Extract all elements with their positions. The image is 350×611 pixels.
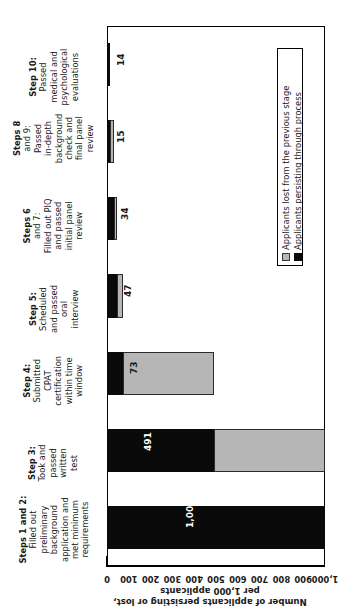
value-axis-tick-label: 0 — [104, 574, 110, 584]
category-label-line: background — [54, 114, 64, 164]
value-axis-tick-label: 300 — [164, 574, 181, 584]
legend-swatch-lost-icon — [282, 253, 290, 261]
category-label-line: within time — [64, 356, 74, 406]
category-label-line: Filled out PIQ — [43, 199, 53, 254]
category-label-line: initial panel — [64, 199, 74, 254]
category-label-line: medical and — [48, 49, 58, 106]
value-axis-tick-label: 400 — [185, 574, 202, 584]
category-label-line: preliminary — [38, 496, 48, 564]
category-label-head: Step 5: — [27, 285, 37, 333]
category-label-line: final panel — [74, 114, 84, 164]
category-label-line: passed — [48, 444, 58, 481]
category-label: Step 4:SubmittedCPATcertificationwithin … — [0, 335, 107, 412]
category-label-line: psychological — [59, 49, 69, 106]
value-axis-tick-label: 700 — [251, 574, 268, 584]
category-label-head: Step 10: — [27, 49, 37, 106]
bar-segment-lost — [110, 120, 114, 163]
value-axis-title: Number of applicants persisting or lost,… — [70, 585, 350, 607]
bar-row: 47 — [107, 274, 325, 317]
category-label-line: written — [59, 444, 69, 481]
legend-label-lost: Applicants lost from the previous stage — [281, 86, 291, 250]
bar-segment-persist — [107, 197, 114, 240]
bar-segment-persist — [107, 274, 117, 317]
category-label-line: Took and — [38, 444, 48, 481]
category-label-line: and 7: — [33, 199, 43, 254]
value-axis-tick-label: 100 — [120, 574, 137, 584]
category-label-line: requirements — [80, 496, 90, 564]
category-label-line: Filled out — [27, 496, 37, 564]
category-label-line: review — [85, 114, 95, 164]
category-label-line: Scheduled — [38, 285, 48, 333]
category-label-head: Steps 8 — [12, 114, 22, 164]
legend-swatch-persist-icon — [294, 253, 302, 261]
category-label-line: Passed — [33, 114, 43, 164]
bar-row: 491 — [107, 429, 325, 472]
category-label-line: window — [74, 356, 84, 406]
category-label-line: met minimum — [69, 496, 79, 564]
category-label-line: background — [48, 496, 58, 564]
category-label: Step 3:Took andpassedwrittentest — [0, 412, 107, 489]
legend-item-lost: Applicants lost from the previous stage — [281, 53, 291, 261]
legend-item-persist: Applicants persisting through process — [293, 53, 303, 261]
category-label-line: interview — [69, 285, 79, 333]
category-label-head: Step 3: — [27, 444, 37, 481]
category-label-line: application and — [59, 496, 69, 564]
category-label-line: and passed — [48, 285, 58, 333]
value-axis-tick-label: 1,000 — [312, 574, 339, 584]
category-label-head: Steps 6 — [22, 199, 32, 254]
category-label: Steps 6and 7:Filled out PIQand passedini… — [0, 180, 107, 257]
category-label-line: Passed — [38, 49, 48, 106]
bar-segment-persist — [107, 429, 214, 472]
chart-legend: Applicants lost from the previous stage … — [277, 48, 303, 266]
value-axis-tick-label: 600 — [229, 574, 246, 584]
bar-segment-persist — [107, 506, 325, 549]
category-label-head: Step 4: — [22, 356, 32, 406]
bar-segment-lost — [214, 429, 325, 472]
value-axis-tick-label: 800 — [273, 574, 290, 584]
category-label-line: CPAT — [43, 356, 53, 406]
bar-row: 73 — [107, 352, 325, 395]
bar-segment-persist — [107, 43, 110, 86]
category-label-line: oral — [59, 285, 69, 333]
category-label-line: test — [69, 444, 79, 481]
category-label-line: and 9: — [22, 114, 32, 164]
bar-row: 1,000 — [107, 506, 325, 549]
category-label-line: check and — [64, 114, 74, 164]
category-label-line: in-depth — [43, 114, 53, 164]
category-label: Step 5:Scheduledand passedoralinterview — [0, 257, 107, 334]
category-label: Steps 8and 9:Passedin-depthbackgroundche… — [0, 103, 107, 180]
category-label-line: certification — [54, 356, 64, 406]
value-axis-title-line1: Number of applicants persisting or lost, — [113, 597, 307, 607]
value-axis-tick-label: 900 — [294, 574, 311, 584]
bar-segment-persist — [107, 352, 123, 395]
chart-figure: Number of applicants persisting or lost,… — [0, 0, 350, 611]
value-axis-tick-label: 500 — [207, 574, 224, 584]
category-label-line: and passed — [54, 199, 64, 254]
category-axis-labels: Steps 1 and 2:Filled outpreliminarybackg… — [0, 26, 107, 566]
category-label-line: Submitted — [33, 356, 43, 406]
category-label-line: review — [74, 199, 84, 254]
bar-segment-persist — [107, 120, 110, 163]
value-axis-tick-label: 200 — [142, 574, 159, 584]
stacked-bar-chart: Number of applicants persisting or lost,… — [0, 0, 350, 611]
value-axis-title-line2: per 1,000 applicants — [70, 585, 350, 596]
bar-segment-lost — [114, 197, 117, 240]
category-label: Steps 1 and 2:Filled outpreliminarybackg… — [0, 489, 107, 566]
category-label-head: Steps 1 and 2: — [17, 496, 27, 564]
legend-label-persist: Applicants persisting through process — [293, 92, 303, 250]
category-label: Step 10:Passedmedical andpsychologicalev… — [0, 26, 107, 103]
category-label-line: evaluations — [69, 49, 79, 106]
value-axis-tick-labels: 01002003004005006007008009001,000 — [0, 570, 350, 584]
